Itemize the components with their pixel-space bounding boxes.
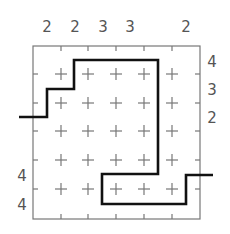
top-clue: 3 xyxy=(98,18,108,36)
top-clue: 2 xyxy=(181,18,191,36)
top-clues: 2 2 3 3 2 xyxy=(42,18,191,36)
top-clue: 2 xyxy=(70,18,80,36)
puzzle-board: 2 2 3 3 2 4 3 2 4 4 xyxy=(0,0,230,234)
right-clue: 3 xyxy=(207,81,217,99)
right-clues: 4 3 2 xyxy=(207,53,217,127)
left-clue: 4 xyxy=(17,196,27,214)
top-clue: 2 xyxy=(42,18,52,36)
left-clue: 4 xyxy=(17,167,27,185)
right-clue: 4 xyxy=(207,53,217,71)
left-clues: 4 4 xyxy=(17,167,27,214)
right-clue: 2 xyxy=(207,109,217,127)
top-clue: 3 xyxy=(125,18,135,36)
